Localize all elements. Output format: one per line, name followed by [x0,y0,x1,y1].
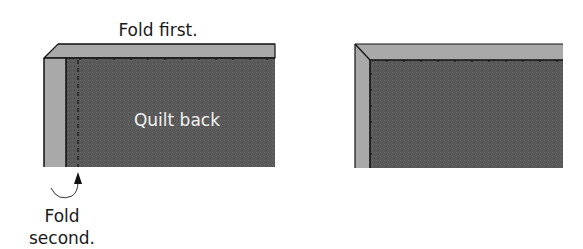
left-binding-strip [44,58,66,167]
quilt-back-result [370,60,563,168]
fold-second-label-line2: second. [29,228,95,248]
diagram-canvas: Fold first. Quilt back Fold second. [0,0,583,249]
fold-first-label: Fold first. [118,20,197,40]
quilt-back-label: Quilt back [134,110,220,130]
right-panel [355,44,563,168]
top-binding-miter [355,44,563,60]
arrow-up-icon [74,172,82,184]
left-binding-miter [355,44,370,168]
top-binding-fold [44,44,275,58]
curved-arrow-icon [51,182,78,198]
left-panel: Fold first. Quilt back Fold second. [29,20,275,248]
fold-second-label-line1: Fold [44,206,79,226]
